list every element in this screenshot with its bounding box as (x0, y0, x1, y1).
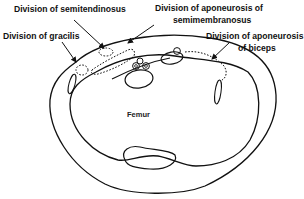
label-biceps-line1: Division of aponeurosis (206, 31, 303, 41)
semitendinosus-dotted-2 (99, 48, 113, 56)
right-slit (213, 80, 222, 105)
lower-oval (124, 147, 176, 170)
arrow-biceps (212, 42, 230, 59)
arrow-gracilis (62, 42, 76, 62)
vessel-ring-2 (143, 63, 150, 70)
label-semitendinosus: Division of semitendinosus (14, 4, 126, 14)
femur-contour (70, 55, 259, 166)
label-semimembranosus-line2: semimembranosus (173, 15, 251, 25)
biceps-dotted (185, 52, 226, 80)
cross-section-drawing (0, 0, 304, 199)
gracilis-dotted (76, 65, 88, 75)
label-semimembranosus-line1: Division of aponeurosis of (155, 3, 263, 13)
label-biceps-line2: of biceps (238, 43, 276, 53)
left-slit (67, 74, 78, 95)
label-gracilis: Division of gracilis (3, 31, 79, 41)
thigh-cross-section-diagram: Division of semitendinosus Division of g… (0, 0, 304, 199)
label-femur: Femur (127, 110, 150, 119)
arrow-semimembranosus (128, 25, 154, 43)
